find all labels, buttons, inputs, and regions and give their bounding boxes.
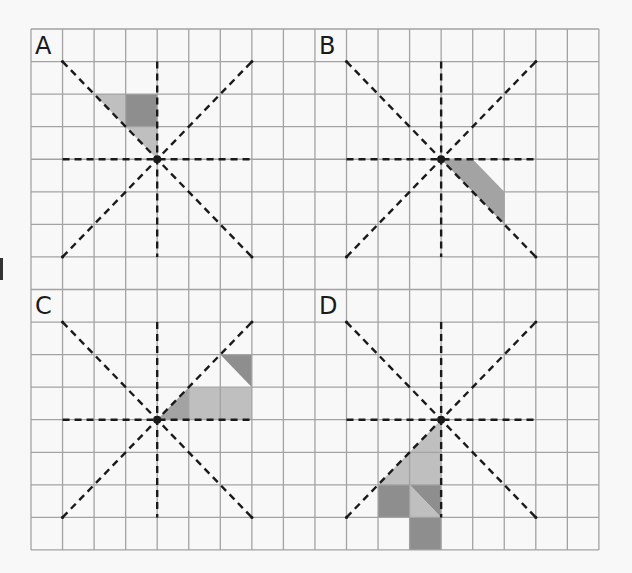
line-endpoint	[61, 60, 64, 63]
line-endpoint	[534, 320, 537, 323]
line-endpoint	[61, 320, 64, 323]
panel-labels: ABCD	[35, 32, 337, 320]
panel-label-d: D	[319, 292, 337, 320]
shaded-shape-a-1	[126, 94, 158, 127]
line-endpoint	[345, 60, 348, 63]
line-endpoint	[61, 516, 64, 519]
line-endpoint	[61, 255, 64, 258]
line-endpoint	[534, 255, 537, 258]
line-endpoint	[534, 60, 537, 63]
center-point-d	[437, 416, 445, 424]
line-endpoint	[250, 60, 253, 63]
line-endpoint	[345, 320, 348, 323]
symmetry-grid-figure: ABCD	[0, 0, 632, 573]
line-endpoint	[345, 255, 348, 258]
line-endpoint	[250, 255, 253, 258]
line-endpoint	[345, 516, 348, 519]
center-point-c	[153, 416, 161, 424]
panel-label-c: C	[35, 292, 52, 320]
shaded-shape-d-4	[410, 517, 442, 550]
shaded-shape-d-1	[378, 485, 410, 518]
shaded-shape-c-0	[220, 355, 252, 388]
line-endpoint	[250, 320, 253, 323]
panel-label-b: B	[319, 32, 335, 60]
line-endpoint	[250, 516, 253, 519]
center-point-b	[437, 155, 445, 163]
line-endpoint	[534, 516, 537, 519]
panel-label-a: A	[35, 32, 52, 60]
center-point-a	[153, 155, 161, 163]
